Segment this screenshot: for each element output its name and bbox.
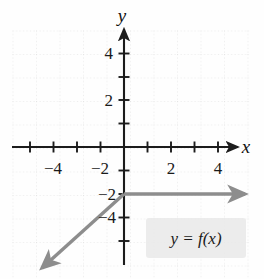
y-tick-label-neg2: −2 (98, 185, 116, 204)
y-tick-label-pos2: 2 (105, 91, 114, 110)
y-axis-label: y (116, 5, 127, 26)
coordinate-plane-svg: −4 −2 2 4 4 2 −2 −4 x y y = f(x) (0, 0, 264, 279)
function-label: y = f(x) (168, 229, 221, 248)
y-tick-label-pos4: 4 (105, 44, 114, 63)
graph-figure: −4 −2 2 4 4 2 −2 −4 x y y = f(x) (0, 0, 264, 279)
x-tick-label-neg2: −2 (91, 159, 109, 178)
x-axis-label: x (241, 136, 251, 157)
x-tick-label-pos2: 2 (167, 159, 176, 178)
x-tick-label-pos4: 4 (214, 159, 223, 178)
x-tick-label-neg4: −4 (44, 159, 63, 178)
y-tick-label-neg4: −4 (98, 208, 117, 227)
